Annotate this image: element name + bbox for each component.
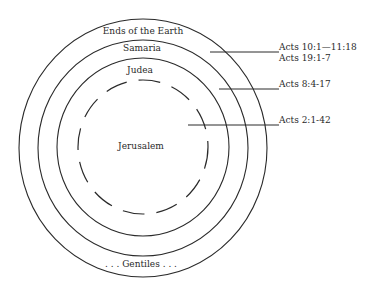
zone-label-ends-of-the-earth: Ends of the Earth [103, 26, 183, 36]
zone-label-jerusalem: Jerusalem [118, 141, 164, 151]
reference-acts-10: Acts 10:1—11:18 [279, 42, 357, 52]
reference-acts-2: Acts 2:1-42 [279, 115, 331, 125]
bottom-label-gentiles: . . . Gentiles . . . [105, 259, 177, 269]
zone-label-samaria: Samaria [123, 43, 161, 53]
zone-label-judea: Judea [127, 65, 153, 75]
reference-acts-19: Acts 19:1-7 [279, 53, 331, 63]
reference-acts-8: Acts 8:4-17 [279, 79, 331, 89]
